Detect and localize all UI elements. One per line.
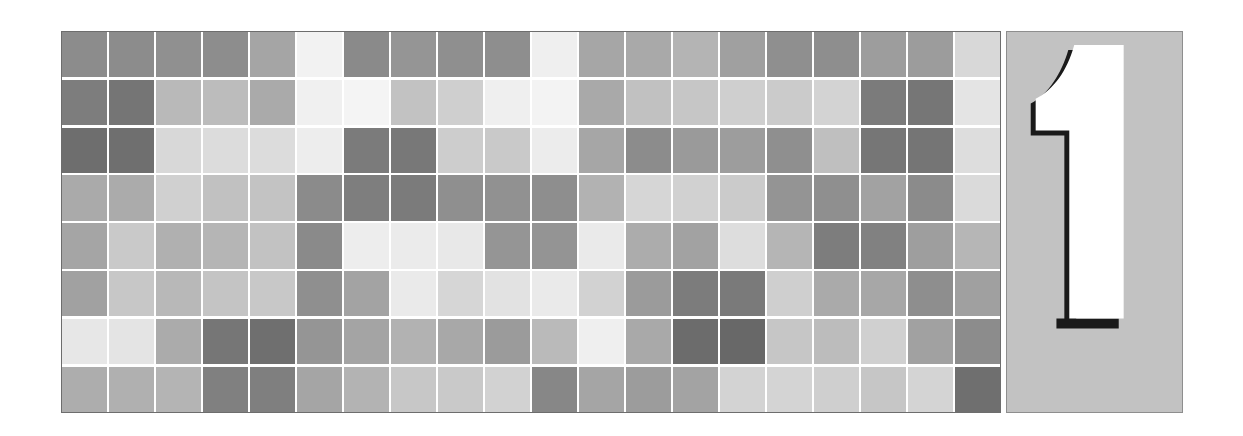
heatmap-cell xyxy=(109,128,154,173)
heatmap-cell xyxy=(626,80,671,125)
heatmap-grid xyxy=(62,32,1000,412)
heatmap-cell xyxy=(203,271,248,316)
heatmap-cell xyxy=(861,319,906,364)
heatmap-cell xyxy=(626,319,671,364)
heatmap-cell xyxy=(391,80,436,125)
heatmap-cell xyxy=(485,223,530,268)
heatmap-cell xyxy=(814,32,859,77)
heatmap-cell xyxy=(861,128,906,173)
heatmap-cell xyxy=(485,367,530,412)
heatmap-cell xyxy=(250,128,295,173)
heatmap-cell xyxy=(344,32,389,77)
heatmap-cell xyxy=(861,80,906,125)
heatmap-cell xyxy=(908,32,953,77)
heatmap-cell xyxy=(297,367,342,412)
heatmap-cell xyxy=(297,271,342,316)
heatmap-cell xyxy=(203,80,248,125)
heatmap-cell xyxy=(673,271,718,316)
heatmap-cell xyxy=(814,175,859,220)
heatmap-cell xyxy=(156,319,201,364)
heatmap-cell xyxy=(438,175,483,220)
heatmap-cell xyxy=(391,271,436,316)
heatmap-cell xyxy=(156,175,201,220)
heatmap-cell xyxy=(626,271,671,316)
heatmap-cell xyxy=(203,223,248,268)
heatmap-cell xyxy=(767,128,812,173)
heatmap-cell xyxy=(908,271,953,316)
heatmap-cell xyxy=(720,32,765,77)
heatmap-cell xyxy=(861,271,906,316)
heatmap-cell xyxy=(391,223,436,268)
heatmap-cell xyxy=(908,367,953,412)
heatmap-cell xyxy=(109,319,154,364)
panel-label-box xyxy=(1006,31,1183,413)
heatmap-cell xyxy=(579,175,624,220)
heatmap-cell xyxy=(579,319,624,364)
heatmap-cell xyxy=(908,223,953,268)
heatmap-cell xyxy=(344,271,389,316)
heatmap-cell xyxy=(62,128,107,173)
heatmap-cell xyxy=(626,128,671,173)
heatmap-cell xyxy=(156,223,201,268)
heatmap-cell xyxy=(861,223,906,268)
heatmap-cell xyxy=(579,223,624,268)
heatmap-cell xyxy=(955,223,1000,268)
heatmap-cell xyxy=(297,32,342,77)
heatmap-cell xyxy=(485,32,530,77)
heatmap-cell xyxy=(532,32,577,77)
heatmap-cell xyxy=(767,80,812,125)
heatmap-cell xyxy=(673,128,718,173)
heatmap-cell xyxy=(250,80,295,125)
heatmap-cell xyxy=(297,175,342,220)
heatmap-cell xyxy=(955,32,1000,77)
heatmap-cell xyxy=(344,80,389,125)
figure-container xyxy=(0,0,1243,436)
heatmap-cell xyxy=(626,32,671,77)
heatmap-cell xyxy=(532,271,577,316)
heatmap-cell xyxy=(250,319,295,364)
heatmap-cell xyxy=(485,128,530,173)
heatmap-cell xyxy=(955,367,1000,412)
heatmap-cell xyxy=(814,271,859,316)
heatmap-cell xyxy=(861,175,906,220)
heatmap-cell xyxy=(203,367,248,412)
heatmap-cell xyxy=(955,271,1000,316)
heatmap-cell xyxy=(391,367,436,412)
heatmap-cell xyxy=(673,32,718,77)
heatmap-cell xyxy=(156,80,201,125)
heatmap-cell xyxy=(62,271,107,316)
heatmap-cell xyxy=(109,32,154,77)
heatmap-cell xyxy=(438,128,483,173)
heatmap-cell xyxy=(767,319,812,364)
heatmap-cell xyxy=(250,367,295,412)
heatmap-cell xyxy=(62,367,107,412)
heatmap-cell xyxy=(438,367,483,412)
heatmap-cell xyxy=(814,319,859,364)
heatmap-cell xyxy=(720,128,765,173)
heatmap-cell xyxy=(532,319,577,364)
heatmap-cell xyxy=(344,319,389,364)
heatmap-cell xyxy=(156,128,201,173)
heatmap-cell xyxy=(908,80,953,125)
heatmap-cell xyxy=(579,32,624,77)
heatmap-cell xyxy=(814,223,859,268)
heatmap-cell xyxy=(344,175,389,220)
heatmap-cell xyxy=(720,367,765,412)
heatmap-cell xyxy=(250,271,295,316)
heatmap-cell xyxy=(156,271,201,316)
heatmap-cell xyxy=(391,128,436,173)
heatmap-cell xyxy=(720,271,765,316)
heatmap-cell xyxy=(62,223,107,268)
heatmap-cell xyxy=(344,128,389,173)
heatmap-cell xyxy=(109,271,154,316)
heatmap-cell xyxy=(814,128,859,173)
heatmap-cell xyxy=(814,80,859,125)
heatmap-cell xyxy=(673,367,718,412)
heatmap-cell xyxy=(297,223,342,268)
heatmap-cell xyxy=(203,128,248,173)
heatmap-cell xyxy=(908,175,953,220)
heatmap-cell xyxy=(297,319,342,364)
heatmap-cell xyxy=(203,319,248,364)
heatmap-cell xyxy=(767,367,812,412)
heatmap-cell xyxy=(626,175,671,220)
